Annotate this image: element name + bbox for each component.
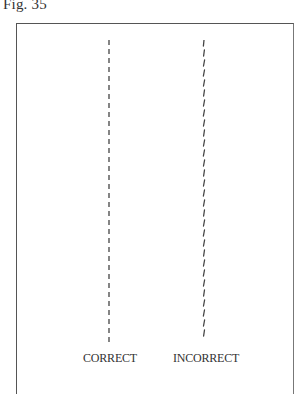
- correct-dashed-line: [107, 40, 109, 342]
- caption-incorrect: INCORRECT: [173, 351, 239, 366]
- incorrect-wavy-dashed-line: [201, 40, 203, 342]
- figure-frame: [16, 23, 294, 394]
- caption-correct: CORRECT: [83, 351, 137, 366]
- figure-label: Fig. 35: [3, 0, 47, 13]
